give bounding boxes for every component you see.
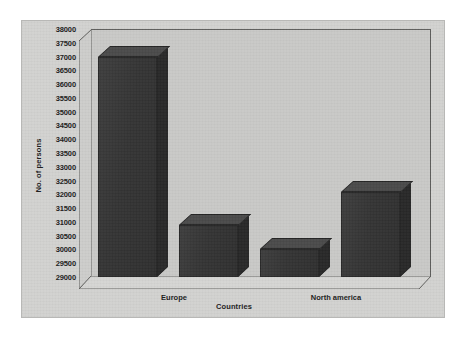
y-axis-tick-label: 34500 — [36, 121, 76, 130]
bar-top-face — [98, 46, 170, 57]
y-axis-tick-label: 31000 — [36, 217, 76, 226]
y-axis-tick-label: 30500 — [36, 231, 76, 240]
bar-front-face — [179, 225, 239, 277]
bar — [179, 225, 239, 277]
bar-side-face — [157, 46, 168, 277]
y-axis-tick-label: 36000 — [36, 80, 76, 89]
y-axis-tick-label: 35500 — [36, 93, 76, 102]
bar — [341, 192, 401, 277]
bar-chart: No. of persons 3800037500370003650036000… — [21, 20, 445, 318]
y-axis-tick-label: 38000 — [36, 25, 76, 34]
bar-front-face — [98, 57, 158, 277]
bar-top-face — [341, 181, 413, 192]
bar — [260, 249, 320, 277]
x-axis-title: Countries — [22, 302, 446, 311]
y-axis-tick-label: 33500 — [36, 149, 76, 158]
x-axis-category-label: Europe — [161, 293, 187, 302]
bar-top-face — [260, 238, 332, 249]
y-axis-tick-label: 29000 — [36, 273, 76, 282]
bar — [98, 57, 158, 277]
bars-layer — [79, 29, 431, 289]
x-axis-category-label: North america — [311, 293, 361, 302]
y-axis-tick-label: 32500 — [36, 176, 76, 185]
y-axis-tick-labels: 3800037500370003650036000355003500034500… — [36, 29, 76, 289]
y-axis-tick-label: 37500 — [36, 38, 76, 47]
y-axis-tick-label: 36500 — [36, 66, 76, 75]
y-axis-tick-label: 29500 — [36, 259, 76, 268]
y-axis-tick-label: 30000 — [36, 245, 76, 254]
y-axis-tick-label: 34000 — [36, 135, 76, 144]
y-axis-tick-label: 35000 — [36, 107, 76, 116]
bar-side-face — [400, 181, 411, 277]
bar-front-face — [341, 192, 401, 277]
plot-area — [79, 29, 431, 289]
bar-top-face — [179, 214, 251, 225]
y-axis-tick-label: 31500 — [36, 204, 76, 213]
y-axis-tick-label: 33000 — [36, 162, 76, 171]
y-axis-tick-label: 32000 — [36, 190, 76, 199]
bar-front-face — [260, 249, 320, 277]
y-axis-tick-label: 37000 — [36, 52, 76, 61]
